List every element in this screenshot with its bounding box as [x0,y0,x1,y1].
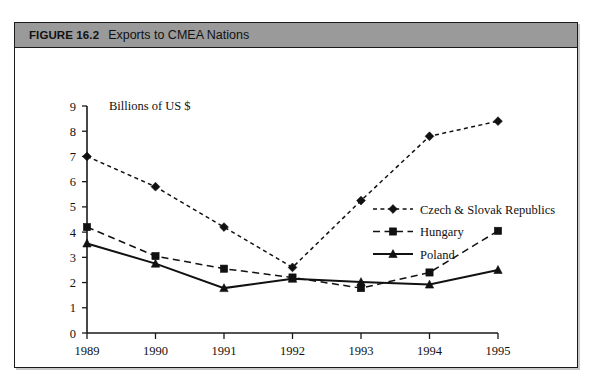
legend-item-hungary[interactable]: Hungary [373,225,464,239]
y-tick-label: 7 [70,150,76,164]
figure-container: FIGURE 16.2 Exports to CMEA Nations 0123… [14,22,578,368]
x-tick-label: 1989 [75,344,100,358]
y-axis: 0123456789 [70,100,87,341]
y-tick-label: 8 [70,125,76,139]
y-tick-label: 5 [70,200,76,214]
figure-title-label: Exports to CMEA Nations [108,28,249,42]
legend-label: Poland [420,248,455,262]
x-tick-label: 1995 [486,344,511,358]
y-tick-label: 2 [70,276,76,290]
x-tick-label: 1994 [417,344,443,358]
y-tick-label: 6 [70,175,76,189]
legend-label: Hungary [420,225,464,239]
chart-plot-area: 0123456789 1989199019911992199319941995 … [15,48,577,367]
x-tick-label: 1993 [349,344,374,358]
figure-header-bar: FIGURE 16.2 Exports to CMEA Nations [15,23,577,48]
figure-number-label: FIGURE 16.2 [29,29,99,41]
chart-legend: Czech & Slovak RepublicsHungaryPoland [373,203,555,262]
data-point-square [83,223,90,230]
legend-item-czech-slovak-republics[interactable]: Czech & Slovak Republics [373,203,555,217]
y-tick-label: 4 [70,226,77,240]
data-point-square [494,227,501,234]
legend-label: Czech & Slovak Republics [420,203,555,217]
y-axis-caption: Billions of US $ [109,99,191,113]
line-chart-svg: 0123456789 1989199019911992199319941995 … [15,48,579,367]
y-tick-label: 9 [70,100,76,114]
data-point-diamond [494,117,503,126]
data-point-square [426,269,433,276]
x-tick-label: 1991 [212,344,237,358]
data-point-square [220,265,227,272]
y-tick-label: 1 [70,301,76,315]
x-tick-label: 1992 [280,344,305,358]
x-tick-label: 1990 [143,344,168,358]
y-tick-label: 3 [70,251,76,265]
data-point-triangle [494,266,502,274]
x-axis: 1989199019911992199319941995 [75,333,511,358]
y-tick-label: 0 [70,327,76,341]
legend-item-poland[interactable]: Poland [373,248,455,262]
data-point-diamond [220,223,229,232]
data-point-diamond [151,182,160,191]
data-point-triangle [83,239,91,247]
series-line [87,121,498,267]
data-point-diamond [425,132,434,141]
data-point-diamond [83,152,92,161]
data-point-square [389,228,396,235]
data-point-diamond [389,205,398,214]
